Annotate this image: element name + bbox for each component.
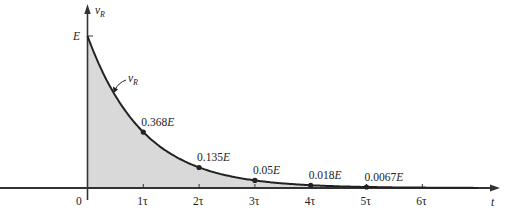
- y-max-label: E: [72, 30, 80, 42]
- curve-label-arrow: [115, 80, 126, 90]
- exponential-decay-chart: 1τ2τ3τ4τ5τ6τ 0.368E0.135E0.05E0.018E0.00…: [0, 0, 510, 220]
- data-point-label: 0.135E: [197, 151, 230, 163]
- data-point: [252, 178, 257, 183]
- curve-label: vR: [128, 72, 138, 87]
- shaded-area: [88, 36, 479, 188]
- x-axis-arrow-icon: [490, 185, 500, 192]
- data-point-label: 0.368E: [141, 116, 174, 128]
- x-tick-label: 1τ: [137, 195, 148, 207]
- x-axis-label: t: [491, 196, 495, 208]
- x-tick-label: 2τ: [193, 195, 204, 207]
- data-point: [197, 165, 202, 170]
- x-tick-label: 5τ: [361, 195, 372, 207]
- data-point: [141, 129, 146, 134]
- y-axis-arrow-icon: [84, 4, 90, 14]
- y-axis-label: vR: [95, 4, 105, 19]
- origin-label: 0: [76, 195, 82, 207]
- data-point: [364, 184, 369, 189]
- data-point-label: 0.018E: [309, 169, 342, 181]
- x-tick-label: 3τ: [249, 195, 260, 207]
- data-point-label: 0.05E: [253, 164, 280, 176]
- data-point: [308, 183, 313, 188]
- x-tick-label: 6τ: [416, 195, 427, 207]
- x-tick-label: 4τ: [305, 195, 316, 207]
- curve-label-arrowhead-icon: [113, 87, 118, 94]
- data-point-label: 0.0067E: [365, 171, 404, 183]
